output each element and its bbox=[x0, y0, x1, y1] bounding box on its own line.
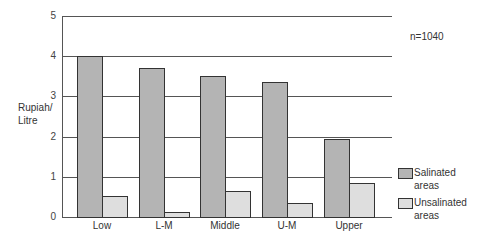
y-axis-label-line1: Rupiah/ bbox=[18, 101, 52, 114]
gridline-3 bbox=[62, 96, 392, 97]
legend-swatch-unsalinated bbox=[398, 198, 413, 209]
x-tick-label: Middle bbox=[195, 220, 255, 231]
y-tick-label: 2 bbox=[42, 131, 56, 142]
bar-unsalinated-u-m bbox=[287, 203, 313, 218]
gridline-4 bbox=[62, 56, 392, 57]
legend-label-salinated: Salinated areas bbox=[414, 166, 456, 192]
x-tick-label: Low bbox=[72, 220, 132, 231]
x-tick-label: Upper bbox=[319, 220, 379, 231]
y-tick-label: 1 bbox=[42, 171, 56, 182]
bar-unsalinated-middle bbox=[225, 191, 251, 218]
y-axis-label: Rupiah/ Litre bbox=[18, 101, 52, 127]
y-tick-label: 5 bbox=[42, 10, 56, 21]
y-axis bbox=[62, 16, 63, 217]
bar-salinated-middle bbox=[200, 76, 226, 218]
legend-label-salinated-line1: Salinated bbox=[414, 166, 456, 179]
bar-salinated-low bbox=[77, 56, 103, 218]
legend-label-unsalinated-line2: areas bbox=[414, 209, 467, 222]
bar-unsalinated-l-m bbox=[164, 212, 190, 218]
sample-size-annotation: n=1040 bbox=[410, 31, 444, 42]
bar-unsalinated-low bbox=[102, 196, 128, 218]
y-tick-label: 0 bbox=[42, 211, 56, 222]
bar-salinated-l-m bbox=[139, 68, 165, 218]
y-tick-label: 4 bbox=[42, 50, 56, 61]
legend-label-unsalinated-line1: Unsalinated bbox=[414, 196, 467, 209]
bar-unsalinated-upper bbox=[349, 183, 375, 218]
x-tick-label: U-M bbox=[257, 220, 317, 231]
y-tick-label: 3 bbox=[42, 90, 56, 101]
x-tick-label: L-M bbox=[134, 220, 194, 231]
bar-salinated-u-m bbox=[262, 82, 288, 218]
gridline-2 bbox=[62, 137, 392, 138]
legend-label-salinated-line2: areas bbox=[414, 179, 456, 192]
legend-label-unsalinated: Unsalinated areas bbox=[414, 196, 467, 222]
bar-salinated-upper bbox=[324, 139, 350, 218]
gridline-5 bbox=[62, 16, 392, 17]
y-axis-label-line2: Litre bbox=[18, 114, 52, 127]
legend-swatch-salinated bbox=[398, 168, 413, 179]
